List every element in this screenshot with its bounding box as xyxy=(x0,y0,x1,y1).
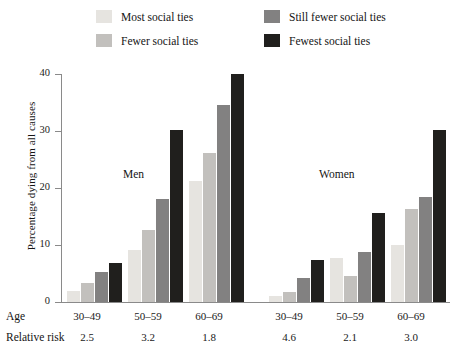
legend: Most social ties Fewer social ties Still… xyxy=(96,10,446,56)
age-cell: 30–49 xyxy=(257,310,321,322)
y-tick-label: 30 xyxy=(10,124,50,135)
legend-swatch-fewer-social-ties xyxy=(96,34,112,47)
bar-group xyxy=(269,74,324,302)
legend-item-fewer-social-ties: Fewer social ties xyxy=(96,34,198,47)
legend-item-most-social-ties: Most social ties xyxy=(96,10,193,23)
relative-risk-cell: 1.8 xyxy=(177,331,241,343)
bar xyxy=(203,153,216,302)
legend-label-still-fewer-social-ties: Still fewer social ties xyxy=(289,11,386,23)
bar xyxy=(109,263,122,302)
y-tick-mark xyxy=(55,302,62,303)
bar xyxy=(391,245,404,302)
relative-risk-cell: 2.5 xyxy=(55,331,119,343)
y-tick-label: 20 xyxy=(10,181,50,192)
legend-label-fewest-social-ties: Fewest social ties xyxy=(289,35,370,47)
bar xyxy=(217,105,230,302)
bar xyxy=(330,258,343,302)
bar xyxy=(311,260,324,302)
bar xyxy=(283,292,296,302)
bar-group xyxy=(189,74,244,302)
bar xyxy=(128,250,141,302)
age-cell: 60–69 xyxy=(379,310,443,322)
bar xyxy=(156,199,169,302)
panel-label-men: Men xyxy=(123,168,144,180)
age-cell: 50–59 xyxy=(318,310,382,322)
legend-swatch-still-fewer-social-ties xyxy=(264,10,280,23)
bar xyxy=(67,291,80,302)
y-axis-title: Percentage dying from all causes xyxy=(25,66,37,286)
legend-label-fewer-social-ties: Fewer social ties xyxy=(121,35,198,47)
bar xyxy=(344,276,357,302)
bar xyxy=(170,130,183,302)
bar xyxy=(189,181,202,302)
bar xyxy=(142,230,155,302)
bar xyxy=(433,130,446,302)
y-tick-label: 40 xyxy=(10,67,50,78)
bar xyxy=(405,209,418,302)
bar xyxy=(81,283,94,302)
bar-group xyxy=(330,74,385,302)
legend-swatch-most-social-ties xyxy=(96,10,112,23)
y-tick-label: 10 xyxy=(10,238,50,249)
bar xyxy=(297,278,310,302)
legend-label-most-social-ties: Most social ties xyxy=(121,11,193,23)
bar xyxy=(269,296,282,302)
relative-risk-cell: 2.1 xyxy=(318,331,382,343)
plot-area xyxy=(61,74,449,302)
legend-swatch-fewest-social-ties xyxy=(264,34,280,47)
bar-group xyxy=(128,74,183,302)
relative-risk-cell: 3.2 xyxy=(116,331,180,343)
bar-group xyxy=(391,74,446,302)
legend-item-fewest-social-ties: Fewest social ties xyxy=(264,34,370,47)
bar xyxy=(358,252,371,302)
panel-label-women: Women xyxy=(319,168,354,180)
x-axis-line xyxy=(61,302,450,303)
age-cell: 60–69 xyxy=(177,310,241,322)
bar xyxy=(95,272,108,302)
relative-risk-cell: 3.0 xyxy=(379,331,443,343)
age-cell: 30–49 xyxy=(55,310,119,322)
age-cell: 50–59 xyxy=(116,310,180,322)
relative-risk-cell: 4.6 xyxy=(257,331,321,343)
bar xyxy=(231,74,244,302)
y-tick-label: 0 xyxy=(10,295,50,306)
bar-group xyxy=(67,74,122,302)
age-row-label: Age xyxy=(6,310,25,322)
bar xyxy=(372,213,385,302)
legend-item-still-fewer-social-ties: Still fewer social ties xyxy=(264,10,386,23)
bar xyxy=(419,197,432,302)
